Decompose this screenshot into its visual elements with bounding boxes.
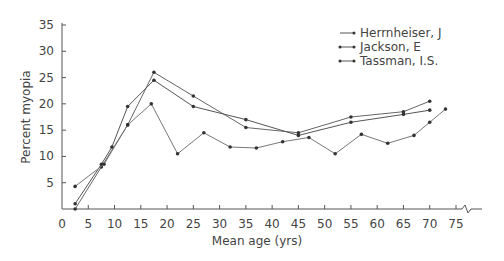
data-point-marker <box>192 105 196 109</box>
x-axis-title: Mean age (yrs) <box>212 234 302 248</box>
y-axis: 5101520253035 <box>39 18 66 209</box>
legend-label: Herrnheiser, J <box>360 26 442 40</box>
x-tick-label: 30 <box>212 217 227 231</box>
legend-item: Tassman, I.S. <box>339 54 439 68</box>
myopia-line-chart: 5101520253035 05101520253035404550556065… <box>0 0 504 261</box>
x-tick-label: 20 <box>159 217 174 231</box>
x-tick-label: 40 <box>264 217 279 231</box>
data-point-marker <box>73 207 77 211</box>
data-point-marker <box>152 78 156 82</box>
x-tick-label: 70 <box>422 217 437 231</box>
data-point-marker <box>244 118 248 122</box>
data-point-marker <box>402 113 406 117</box>
data-point-marker <box>333 152 337 156</box>
series-jackson-e <box>73 78 431 205</box>
x-tick-label: 25 <box>186 217 201 231</box>
data-point-marker <box>255 146 259 150</box>
data-point-marker <box>102 163 106 167</box>
y-tick-label: 20 <box>39 97 54 111</box>
legend-label: Tassman, I.S. <box>359 54 438 68</box>
data-point-marker <box>297 134 301 138</box>
data-point-marker <box>428 99 432 103</box>
data-point-marker <box>152 71 156 75</box>
x-tick-label: 55 <box>343 217 358 231</box>
data-point-marker <box>444 107 448 111</box>
x-tick-label: 50 <box>317 217 332 231</box>
y-tick-label: 35 <box>39 18 54 32</box>
data-point-marker <box>281 140 285 144</box>
y-tick-label: 5 <box>46 176 54 190</box>
data-point-marker <box>428 108 432 112</box>
x-tick-label: 60 <box>370 217 385 231</box>
legend-item: Jackson, E <box>339 40 421 54</box>
data-point-marker <box>176 152 180 156</box>
data-point-marker <box>428 120 432 124</box>
x-tick-label: 75 <box>448 217 463 231</box>
y-tick-label: 15 <box>39 123 54 137</box>
x-tick-label: 35 <box>238 217 253 231</box>
series-herrnheiser-j <box>73 71 431 211</box>
x-tick-label: 45 <box>291 217 306 231</box>
y-tick-label: 30 <box>39 44 54 58</box>
data-point-marker <box>412 134 416 138</box>
data-point-marker <box>73 202 77 206</box>
series-layer <box>73 71 447 211</box>
legend: Herrnheiser, JJackson, ETassman, I.S. <box>339 26 442 68</box>
legend-label: Jackson, E <box>359 40 421 54</box>
data-point-marker <box>244 126 248 130</box>
y-axis-title: Percent myopia <box>19 70 33 163</box>
data-point-marker <box>349 115 353 119</box>
data-point-marker <box>150 102 154 106</box>
data-point-marker <box>228 145 232 149</box>
series-tassman-i-s <box>73 102 447 188</box>
data-point-marker <box>202 131 206 135</box>
x-tick-label: 5 <box>84 217 92 231</box>
data-point-marker <box>386 141 390 145</box>
axis-break-icon <box>462 205 482 213</box>
data-point-marker <box>360 133 364 137</box>
data-point-marker <box>126 105 130 109</box>
data-point-marker <box>73 185 77 189</box>
y-tick-label: 10 <box>39 149 54 163</box>
x-tick-label: 15 <box>133 217 148 231</box>
legend-item: Herrnheiser, J <box>340 26 442 40</box>
data-point-marker <box>126 123 130 127</box>
x-tick-label: 65 <box>396 217 411 231</box>
x-tick-label: 0 <box>58 217 66 231</box>
x-tick-label: 10 <box>107 217 122 231</box>
data-point-marker <box>349 120 353 124</box>
data-point-marker <box>192 94 196 98</box>
data-point-marker <box>307 136 311 140</box>
y-tick-label: 25 <box>39 71 54 85</box>
x-axis: 051015202530354045505560657075 <box>58 205 482 231</box>
